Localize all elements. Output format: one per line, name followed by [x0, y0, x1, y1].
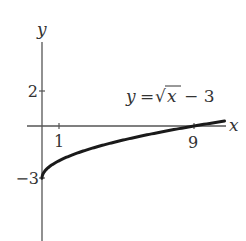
x-axis-label: x [229, 115, 239, 135]
svg-text:y: y [125, 86, 136, 106]
svg-text:− 3: − 3 [184, 86, 214, 106]
svg-text:√: √ [155, 86, 166, 106]
x-tick-label-9: 9 [188, 133, 198, 152]
y-tick-label-neg3: −3 [15, 169, 39, 188]
equation-label: y = √ x − 3 [125, 86, 214, 106]
y-axis-label: y [36, 19, 47, 39]
svg-text:=: = [140, 86, 154, 106]
y-tick-label-2: 2 [28, 82, 38, 101]
chart: y x 1 9 2 −3 y = √ x − 3 [0, 0, 246, 241]
svg-text:x: x [167, 86, 177, 106]
x-tick-label-1: 1 [54, 132, 64, 151]
